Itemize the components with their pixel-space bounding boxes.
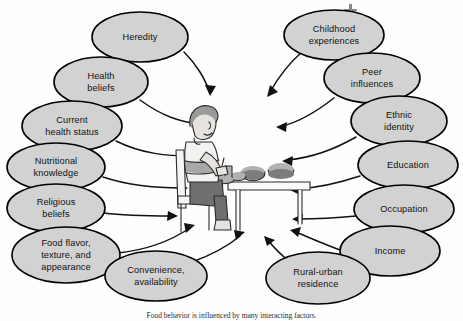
node-occupation-label-1: Occupation xyxy=(380,204,427,214)
arrow-rural-urban-residence-head xyxy=(264,236,275,246)
node-current-health-status-label-2: health status xyxy=(45,127,99,137)
illustration-table xyxy=(228,182,310,230)
node-education-label-1: Education xyxy=(387,160,429,170)
arrow-childhood-experiences xyxy=(270,52,302,92)
arrow-religious-beliefs-head xyxy=(167,211,178,221)
node-convenience-label-2: availability xyxy=(134,277,178,287)
arrow-convenience xyxy=(192,236,240,262)
arrow-heredity-head xyxy=(205,85,216,96)
node-ethnic-identity-label-1: Ethnic xyxy=(386,110,412,120)
node-childhood-experiences-label-2: experiences xyxy=(309,36,360,46)
illustration-food-bowls xyxy=(225,163,294,181)
node-group-right: Childhood experiences Peer influences Et… xyxy=(266,10,458,304)
node-rural-urban-label-2: residence xyxy=(298,279,339,289)
node-health-beliefs-label-1: Health xyxy=(87,71,114,81)
arrow-peer-influences xyxy=(282,98,334,126)
node-current-health-status-label-1: Current xyxy=(56,115,88,125)
node-rural-urban-label-1: Rural-urban xyxy=(293,267,343,277)
illustration-person-head xyxy=(190,106,218,144)
node-health-beliefs[interactable]: Health beliefs xyxy=(54,57,148,107)
node-heredity-label-1: Heredity xyxy=(122,32,157,42)
arrow-income xyxy=(296,232,346,252)
node-food-flavor-label-2: texture, and xyxy=(41,250,91,260)
node-religious-beliefs-label-1: Religious xyxy=(37,197,76,207)
node-rural-urban-residence[interactable]: Rural-urban residence xyxy=(266,252,370,304)
node-religious-beliefs[interactable]: Religious beliefs xyxy=(7,184,105,232)
node-nutritional-knowledge-label-2: knowledge xyxy=(34,168,79,178)
node-convenience-label-1: Convenience, xyxy=(127,265,184,275)
concept-diagram: Heredity Health beliefs Current health s… xyxy=(0,0,463,321)
node-income-label-1: Income xyxy=(375,246,406,256)
node-heredity[interactable]: Heredity xyxy=(92,12,188,62)
node-peer-influences-label-1: Peer xyxy=(362,67,382,77)
arrow-peer-influences-head xyxy=(276,122,287,132)
node-childhood-experiences-label-1: Childhood xyxy=(313,24,355,34)
arrow-food-flavor xyxy=(118,228,190,253)
node-convenience-availability[interactable]: Convenience, availability xyxy=(105,251,207,301)
arrow-income-head xyxy=(290,227,301,237)
arrow-nutritional-knowledge xyxy=(103,177,182,188)
node-nutritional-knowledge-label-1: Nutritional xyxy=(35,156,77,166)
illustration-person-eating xyxy=(176,106,310,232)
node-education[interactable]: Education xyxy=(358,141,458,189)
arrow-religious-beliefs xyxy=(104,213,172,216)
node-food-flavor-texture-appearance[interactable]: Food flavor, texture, and appearance xyxy=(12,227,120,283)
node-health-beliefs-label-2: beliefs xyxy=(87,83,115,93)
illustration-person-legs xyxy=(190,180,231,230)
arrow-occupation xyxy=(298,216,356,219)
node-occupation[interactable]: Occupation xyxy=(354,185,454,233)
node-ethnic-identity-label-2: identity xyxy=(384,122,414,132)
node-ethnic-identity[interactable]: Ethnic identity xyxy=(351,96,447,146)
figure-caption: Food behavior is influenced by many inte… xyxy=(0,312,463,321)
node-peer-influences-label-2: influences xyxy=(351,79,394,89)
node-religious-beliefs-label-2: beliefs xyxy=(42,209,70,219)
arrow-ethnic-identity xyxy=(288,137,356,160)
node-food-flavor-label-1: Food flavor, xyxy=(41,238,90,248)
figure-container: Heredity Health beliefs Current health s… xyxy=(0,0,463,321)
node-food-flavor-label-3: appearance xyxy=(41,262,91,272)
